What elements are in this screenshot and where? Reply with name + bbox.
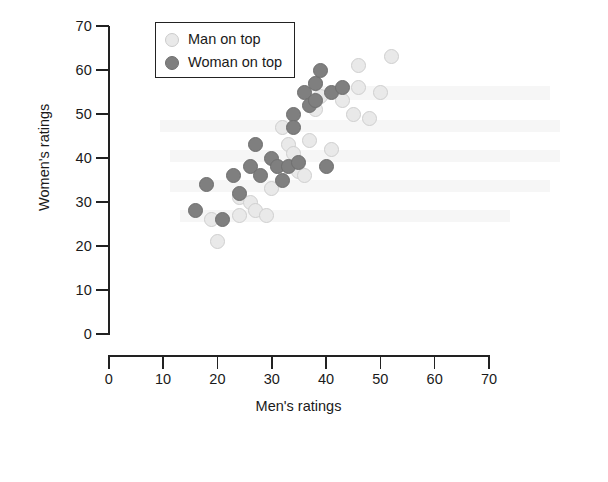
y-axis-tick-label: 60 <box>58 63 92 78</box>
y-axis-tick-label: 10 <box>58 283 92 298</box>
x-axis-tick <box>108 355 110 369</box>
legend-item-man-on-top: Man on top <box>165 28 294 51</box>
legend: Man on top Woman on top <box>155 22 295 78</box>
legend-swatch-light-circle-icon <box>165 33 179 47</box>
x-axis-tick <box>325 355 327 369</box>
legend-swatch-dark-circle-icon <box>165 56 179 70</box>
y-axis-tick-label: 70 <box>58 19 92 34</box>
data-point <box>210 234 225 249</box>
y-axis-tick-label: 40 <box>58 151 92 166</box>
data-point <box>275 173 290 188</box>
data-point <box>362 111 377 126</box>
data-point <box>232 186 247 201</box>
x-axis-tick-label: 60 <box>415 372 455 387</box>
legend-label: Woman on top <box>188 55 282 70</box>
data-point <box>248 137 263 152</box>
data-point <box>351 80 366 95</box>
data-point <box>346 107 361 122</box>
x-axis-line <box>108 355 489 357</box>
y-axis-tick-label: 20 <box>58 239 92 254</box>
y-axis-tick <box>96 201 109 203</box>
y-axis-title: Women's ratings <box>37 77 52 237</box>
scatter-plot-figure: 010203040506070 Women's ratings 01020304… <box>0 0 608 482</box>
data-point <box>188 203 203 218</box>
y-axis-tick <box>96 157 109 159</box>
x-axis-tick-label: 30 <box>252 372 292 387</box>
x-axis-tick <box>434 355 436 369</box>
data-point <box>308 93 323 108</box>
y-axis-tick <box>96 289 109 291</box>
x-axis-tick <box>271 355 273 369</box>
y-axis-tick-label: 30 <box>58 195 92 210</box>
y-axis-tick <box>96 113 109 115</box>
data-point <box>215 212 230 227</box>
x-axis-tick-label: 40 <box>306 372 346 387</box>
y-axis-tick-label: 0 <box>58 327 92 342</box>
data-point <box>302 133 317 148</box>
data-point <box>226 168 241 183</box>
x-axis-tick-label: 20 <box>197 372 237 387</box>
x-axis-tick <box>488 355 490 369</box>
y-axis-tick <box>96 245 109 247</box>
plot-area: 010203040506070 Women's ratings 01020304… <box>0 0 608 482</box>
x-axis-tick <box>217 355 219 369</box>
data-point <box>199 177 214 192</box>
data-point <box>384 49 399 64</box>
data-point <box>253 168 268 183</box>
x-axis-tick-label: 10 <box>143 372 183 387</box>
data-point <box>319 159 334 174</box>
y-axis-top-tick <box>96 25 109 27</box>
x-axis-title: Men's ratings <box>108 399 489 414</box>
y-axis-bottom-tick <box>96 333 109 335</box>
x-axis-tick <box>162 355 164 369</box>
data-point <box>373 85 388 100</box>
data-point <box>286 120 301 135</box>
data-point <box>313 63 328 78</box>
x-axis-tick-label: 0 <box>89 372 129 387</box>
x-axis-tick <box>380 355 382 369</box>
data-point <box>335 80 350 95</box>
data-point <box>259 208 274 223</box>
data-point <box>232 208 247 223</box>
x-axis-tick-label: 50 <box>360 372 400 387</box>
data-point <box>324 142 339 157</box>
y-axis-tick <box>96 69 109 71</box>
y-axis-tick-label: 50 <box>58 107 92 122</box>
legend-label: Man on top <box>188 32 261 47</box>
data-point <box>351 58 366 73</box>
y-axis-tick-labels: 010203040506070 <box>52 0 92 482</box>
data-point <box>308 76 323 91</box>
x-axis-tick-label: 70 <box>469 372 509 387</box>
data-point <box>297 168 312 183</box>
legend-item-woman-on-top: Woman on top <box>165 51 294 74</box>
